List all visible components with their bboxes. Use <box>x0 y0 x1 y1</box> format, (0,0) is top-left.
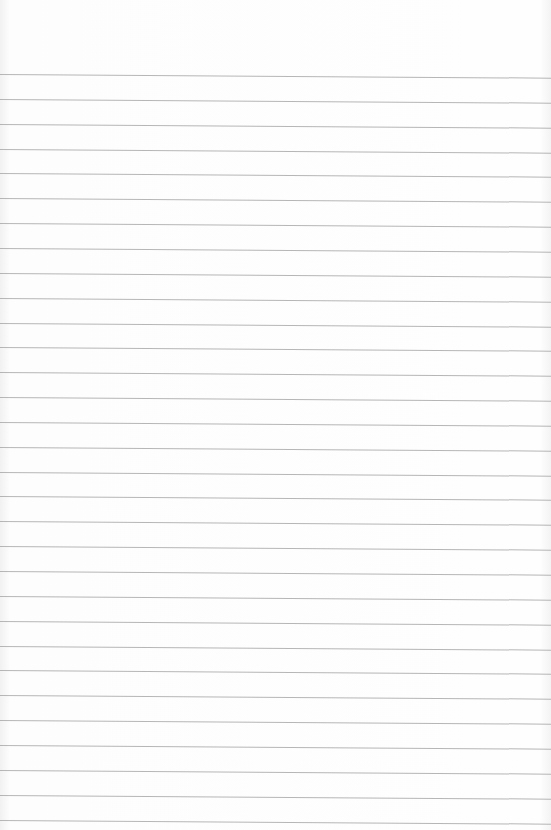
ruled-line <box>0 74 551 79</box>
ruled-line <box>0 99 551 104</box>
ruled-line <box>0 173 551 178</box>
ruled-line <box>0 720 551 725</box>
ruled-line <box>0 472 551 477</box>
ruled-line <box>0 670 551 675</box>
ruled-line <box>0 223 551 228</box>
ruled-line <box>0 521 551 526</box>
ruled-line <box>0 149 551 154</box>
ruled-line <box>0 646 551 651</box>
ruled-line <box>0 546 551 551</box>
ruled-line <box>0 347 551 352</box>
ruled-line <box>0 273 551 278</box>
ruled-line <box>0 298 551 303</box>
ruled-line <box>0 323 551 328</box>
ruled-line <box>0 695 551 700</box>
ruled-line <box>0 596 551 601</box>
ruled-line <box>0 422 551 427</box>
ruled-line <box>0 496 551 501</box>
ruled-line <box>0 571 551 576</box>
ruled-line <box>0 198 551 203</box>
ruled-line <box>0 248 551 253</box>
ruled-line <box>0 745 551 750</box>
ruled-line <box>0 770 551 775</box>
ruled-line <box>0 397 551 402</box>
ruled-line <box>0 124 551 129</box>
ruled-line <box>0 447 551 452</box>
ruled-line <box>0 820 551 825</box>
lined-paper-sheet <box>0 0 551 830</box>
ruled-line <box>0 372 551 377</box>
ruled-line <box>0 795 551 800</box>
ruled-line <box>0 621 551 626</box>
